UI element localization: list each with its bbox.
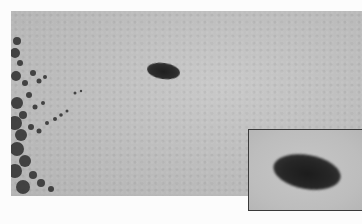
magnified-inset <box>248 129 362 211</box>
tree-foliage <box>11 11 101 196</box>
magnified-flying-object <box>271 149 344 194</box>
